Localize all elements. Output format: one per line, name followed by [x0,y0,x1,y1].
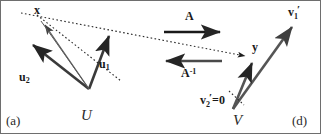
vector-u2-arrow [33,45,89,89]
caption-panel-a: (a) [6,114,20,127]
label-map-A: A [185,10,194,22]
label-space-V: V [233,113,242,128]
label-map-A-inverse: A-1 [181,67,196,79]
label-vector-u1-subscript: 1 [106,63,110,72]
vector-space-figure: x u1 u2 U (a) A A-1 y v1′ v2′=0 V (d) [0,0,321,134]
label-space-U: U [81,108,92,123]
projection-helper-line-left [41,21,89,89]
label-map-A-inverse-base: A [181,66,190,80]
vector-v1-prime-arrow [233,27,292,109]
label-vector-v1-prime-mark: ′ [297,3,300,15]
label-vector-v1-prime: v1′ [288,4,300,21]
label-vector-u2-subscript: 2 [26,76,30,85]
dotted-line-x-to-y [21,13,245,56]
label-vector-x: x [34,4,40,16]
label-vector-y: y [252,41,258,53]
label-vector-v2-prime-zero: v2′=0 [200,92,225,109]
label-vector-u1-base: u [99,57,106,71]
figure-vector-graphics [1,1,321,134]
label-vector-u2-base: u [19,70,26,84]
caption-panel-d: (d) [292,114,307,127]
label-vector-u1: u1 [99,58,110,72]
label-vector-u2: u2 [19,71,30,85]
label-vector-v2-prime-value: =0 [212,93,225,107]
label-map-A-inverse-exponent: -1 [190,67,197,76]
